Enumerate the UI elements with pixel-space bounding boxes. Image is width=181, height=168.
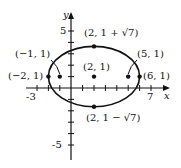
center-label: (2, 1) (83, 61, 110, 72)
bottom-vertex-point (92, 105, 96, 109)
right-focus-point (126, 74, 130, 78)
right-focus-label: (5, 1) (137, 48, 164, 59)
center-point (92, 74, 96, 78)
right-vertex-label: (6, 1) (143, 70, 170, 81)
left-vertex-point (46, 74, 50, 78)
x-axis-label: x (164, 90, 170, 101)
left-focus-label: (−1, 1) (15, 48, 50, 59)
x-tick-label-7: 7 (147, 91, 153, 102)
left-vertex-label: (−2, 1) (8, 70, 43, 81)
right-vertex-point (137, 74, 141, 78)
left-focus-leader (51, 60, 60, 74)
bottom-vertex-label: (2, 1 − √7) (86, 112, 140, 123)
y-tick-label-neg5: -5 (52, 139, 62, 150)
top-vertex-point (92, 44, 96, 48)
y-axis-label: y (62, 9, 69, 20)
points (46, 44, 142, 109)
left-focus-point (58, 74, 62, 78)
right-focus-leader (128, 60, 137, 74)
y-tick-label-5: 5 (60, 25, 66, 36)
x-tick-label-neg3: -3 (26, 91, 36, 102)
top-vertex-label: (2, 1 + √7) (84, 27, 138, 38)
ellipse-diagram: y x -3 7 5 -5 (2, 1 + √7) (2, 1 − √7) (−… (0, 0, 181, 168)
y-axis-arrow-icon (68, 12, 74, 19)
